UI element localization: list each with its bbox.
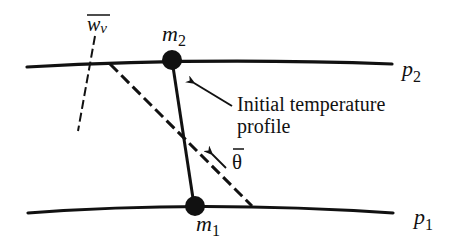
temperature-profile-diagram: m2 m1 p2 p1 wv θ Initial temperature pro… bbox=[0, 0, 454, 242]
initial-temperature-profile-line bbox=[172, 60, 194, 205]
vertical-velocity-dashed-line bbox=[78, 36, 95, 131]
isobar-p2-label: p2 bbox=[400, 56, 421, 85]
annotation-line-1: Initial temperature bbox=[237, 93, 385, 116]
parcel-m2-label: m2 bbox=[162, 21, 186, 49]
mean-theta-dashed-line bbox=[110, 64, 252, 206]
theta-arrow bbox=[212, 154, 226, 168]
parcel-m1-label: m1 bbox=[196, 211, 220, 239]
isobar-p2-line bbox=[27, 61, 392, 67]
vertical-velocity-label: wv bbox=[87, 13, 107, 36]
mean-theta-label: θ bbox=[232, 150, 242, 174]
parcel-m2-dot bbox=[162, 50, 182, 70]
isobar-p1-label: p1 bbox=[412, 204, 433, 233]
annotation-line-2: profile bbox=[237, 115, 290, 138]
annotation-arrow bbox=[194, 83, 232, 106]
